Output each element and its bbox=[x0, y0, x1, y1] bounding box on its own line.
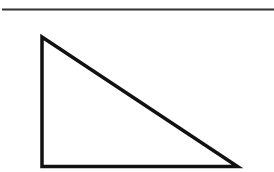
right-triangle bbox=[42, 37, 238, 167]
diagram-canvas bbox=[0, 0, 274, 172]
